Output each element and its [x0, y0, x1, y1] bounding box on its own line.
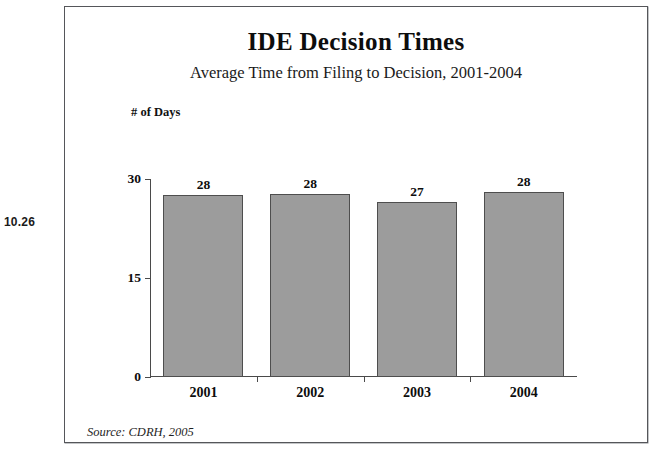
y-axis-tick-mark — [145, 179, 151, 180]
bar — [484, 192, 564, 377]
x-axis-category-label: 2001 — [189, 385, 217, 401]
y-axis-tick-mark — [145, 377, 151, 378]
bar-value-label: 28 — [517, 174, 531, 190]
chart-frame: IDE Decision Times Average Time from Fil… — [64, 6, 648, 443]
bar-value-label: 28 — [303, 176, 317, 192]
bar — [377, 202, 457, 377]
y-axis-title: # of Days — [131, 105, 180, 120]
x-axis-category-label: 2003 — [403, 385, 431, 401]
bar — [163, 195, 243, 377]
x-axis-separator-tick — [364, 376, 365, 382]
y-axis-tick-label: 15 — [128, 270, 142, 286]
x-axis-category-label: 2004 — [510, 385, 538, 401]
y-axis-tick-label: 0 — [134, 369, 141, 385]
source-note: Source: CDRH, 2005 — [87, 425, 194, 440]
plot-area: 01530 282001282002272003282004 — [150, 173, 640, 378]
bar-value-label: 27 — [410, 184, 424, 200]
page-margin-note: 10.26 — [4, 215, 35, 229]
x-axis-category-label: 2002 — [296, 385, 324, 401]
chart-subtitle: Average Time from Filing to Decision, 20… — [65, 63, 647, 83]
x-axis-separator-tick — [470, 376, 471, 382]
y-axis-tick-label: 30 — [128, 171, 142, 187]
chart-title: IDE Decision Times — [65, 28, 647, 56]
x-axis-separator-tick — [257, 376, 258, 382]
bar-value-label: 28 — [197, 177, 211, 193]
y-axis-tick-mark — [145, 278, 151, 279]
bar — [270, 194, 350, 377]
